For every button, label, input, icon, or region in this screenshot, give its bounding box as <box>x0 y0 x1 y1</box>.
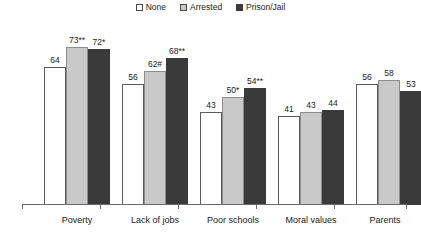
bar-value-label: 62# <box>148 60 162 69</box>
bar-rect <box>356 84 378 205</box>
bar-rect <box>278 116 300 205</box>
bar-arrested-moral-values: 43 <box>300 35 322 205</box>
bar-value-label: 64 <box>50 56 59 65</box>
bar-none-poor-schools: 43 <box>200 35 222 205</box>
bar-prison-jail-parents: 53 <box>400 35 421 205</box>
bar-rect <box>200 112 222 205</box>
x-axis-label-poverty: Poverty <box>62 216 93 225</box>
bar-value-label: 41 <box>284 105 293 114</box>
bar-rect <box>322 110 344 205</box>
bar-none-parents: 56 <box>356 35 378 205</box>
bar-value-label: 50* <box>227 86 240 95</box>
bar-rect <box>400 91 421 205</box>
bar-value-label: 68** <box>169 47 185 56</box>
bar-prison-jail-poor-schools: 54** <box>244 35 266 205</box>
bar-none-poverty: 64 <box>44 35 66 205</box>
bar-rect <box>88 49 110 205</box>
bar-value-label: 56 <box>128 73 137 82</box>
bar-chart: None Arrested Prison/Jail 64 73** <box>0 0 421 232</box>
bar-arrested-lack-of-jobs: 62# <box>144 35 166 205</box>
bar-value-label: 43 <box>306 101 315 110</box>
x-axis-label-parents: Parents <box>369 216 400 225</box>
bar-rect <box>244 88 266 205</box>
x-axis-tick <box>256 205 257 209</box>
bar-rect <box>300 112 322 205</box>
x-axis-tick <box>334 205 335 209</box>
bar-arrested-parents: 58 <box>378 35 400 205</box>
bar-value-label: 58 <box>384 69 393 78</box>
bar-prison-jail-poverty: 72* <box>88 35 110 205</box>
bar-value-label: 72* <box>93 38 106 47</box>
x-axis-tick <box>22 205 23 209</box>
x-axis-label-lack-of-jobs: Lack of jobs <box>131 216 179 225</box>
bar-arrested-poverty: 73** <box>66 35 88 205</box>
bar-value-label: 44 <box>328 99 337 108</box>
x-axis-tick <box>100 205 101 209</box>
bar-prison-jail-lack-of-jobs: 68** <box>166 35 188 205</box>
bar-none-lack-of-jobs: 56 <box>122 35 144 205</box>
plot-area: 64 73** 72* 56 <box>0 0 421 232</box>
bar-none-moral-values: 41 <box>278 35 300 205</box>
bar-rect <box>166 58 188 205</box>
x-axis-tick <box>406 205 407 209</box>
x-axis-label-moral-values: Moral values <box>285 216 336 225</box>
bar-value-label: 53 <box>406 80 415 89</box>
bar-value-label: 54** <box>247 77 263 86</box>
bar-value-label: 43 <box>206 101 215 110</box>
bar-rect <box>222 97 244 205</box>
bar-value-label: 73** <box>69 36 85 45</box>
bar-rect <box>66 47 88 205</box>
bar-rect <box>378 80 400 205</box>
bar-rect <box>122 84 144 205</box>
bar-value-label: 56 <box>362 73 371 82</box>
bar-prison-jail-moral-values: 44 <box>322 35 344 205</box>
bar-arrested-poor-schools: 50* <box>222 35 244 205</box>
x-axis-label-poor-schools: Poor schools <box>207 216 259 225</box>
x-axis-line <box>22 204 407 205</box>
bar-rect <box>44 67 66 205</box>
bar-rect <box>144 71 166 205</box>
x-axis-tick <box>178 205 179 209</box>
